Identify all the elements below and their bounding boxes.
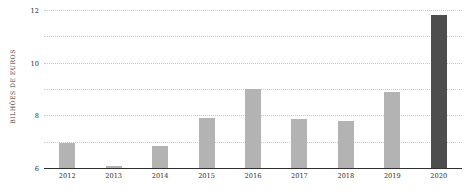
bar-slot bbox=[416, 10, 462, 168]
bar bbox=[291, 119, 307, 168]
x-axis-tick-label: 2019 bbox=[369, 172, 415, 180]
x-axis-tick-labels: 201220132014201520162017201820192020 bbox=[44, 172, 462, 180]
y-axis-tick-label: 6 bbox=[35, 165, 39, 173]
bar bbox=[245, 89, 261, 168]
bar-slot bbox=[183, 10, 229, 168]
bar bbox=[384, 92, 400, 168]
bar-slot bbox=[230, 10, 276, 168]
bar-slot bbox=[323, 10, 369, 168]
bar-slot bbox=[369, 10, 415, 168]
y-axis-tick-label: 10 bbox=[31, 60, 39, 68]
plot-area: 024681012 bbox=[44, 10, 462, 168]
bar bbox=[152, 146, 168, 168]
bar bbox=[59, 143, 75, 168]
x-axis-tick-label: 2014 bbox=[137, 172, 183, 180]
bar-series bbox=[44, 10, 462, 168]
x-axis-tick-label: 2018 bbox=[323, 172, 369, 180]
bar bbox=[199, 118, 215, 168]
bar-slot bbox=[137, 10, 183, 168]
y-axis-tick-label: 12 bbox=[31, 7, 39, 15]
bar-chart: BILHÕES DE EUROS 024681012 2012201320142… bbox=[0, 0, 469, 194]
x-axis-tick-label: 2013 bbox=[90, 172, 136, 180]
bar bbox=[431, 15, 447, 168]
y-axis-title-text: BILHÕES DE EUROS bbox=[9, 49, 16, 124]
bar bbox=[338, 121, 354, 168]
x-axis-tick-label: 2017 bbox=[276, 172, 322, 180]
bar-slot bbox=[90, 10, 136, 168]
bar-slot bbox=[276, 10, 322, 168]
y-axis-title: BILHÕES DE EUROS bbox=[0, 0, 24, 172]
x-axis-tick-label: 2020 bbox=[416, 172, 462, 180]
x-axis-tick-label: 2016 bbox=[230, 172, 276, 180]
bar-slot bbox=[44, 10, 90, 168]
x-axis-tick-label: 2015 bbox=[183, 172, 229, 180]
x-axis-tick-label: 2012 bbox=[44, 172, 90, 180]
y-axis-tick-label: 8 bbox=[35, 112, 39, 120]
x-axis-line bbox=[44, 168, 462, 169]
